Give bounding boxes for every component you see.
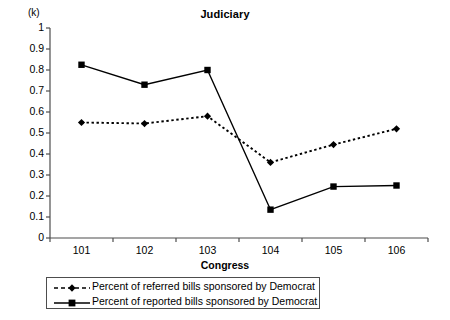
x-tick-label: 102: [125, 245, 165, 256]
legend: Percent of referred bills sponsored by D…: [46, 277, 320, 309]
y-tick-label: 0.8: [18, 64, 44, 75]
y-tick-label: 0.6: [18, 106, 44, 117]
y-tick-label: 1: [18, 22, 44, 33]
x-tick-label: 103: [188, 245, 228, 256]
legend-label-reported: Percent of reported bills sponsored by D…: [92, 295, 317, 307]
y-tick-label: 0.7: [18, 85, 44, 96]
legend-label-referred: Percent of referred bills sponsored by D…: [92, 280, 315, 292]
y-tick-label: 0.3: [18, 169, 44, 180]
x-tick-label: 101: [62, 245, 102, 256]
y-tick-label: 0.2: [18, 190, 44, 201]
chart-container: Judiciary (k) 10.90.80.70.60.50.40.30.20…: [0, 0, 450, 320]
legend-item-reported: Percent of reported bills sponsored by D…: [47, 293, 319, 308]
legend-marker-square-solid: [52, 295, 92, 307]
x-tick-label: 104: [251, 245, 291, 256]
y-tick-label: 0.4: [18, 148, 44, 159]
x-tick-label: 106: [377, 245, 417, 256]
y-tick-label: 0.9: [18, 43, 44, 54]
x-axis-title: Congress: [0, 259, 450, 271]
x-tick-label: 105: [314, 245, 354, 256]
legend-marker-diamond-dotted: [52, 280, 92, 292]
y-tick-label: 0.1: [18, 211, 44, 222]
y-tick-label: 0: [18, 232, 44, 243]
y-tick-label: 0.5: [18, 127, 44, 138]
plot-area: [0, 0, 450, 320]
legend-item-referred: Percent of referred bills sponsored by D…: [47, 278, 319, 293]
data-series: [78, 62, 400, 213]
